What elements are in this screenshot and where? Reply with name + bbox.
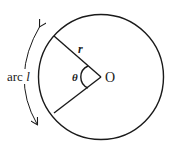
sector-diagram: arc l r θ O — [0, 0, 182, 150]
radius-label: r — [78, 42, 83, 56]
angle-arc — [81, 66, 88, 88]
center-point-label: O — [105, 70, 115, 85]
angle-label: θ — [72, 71, 78, 83]
arc-length-label: arc l — [7, 69, 30, 84]
